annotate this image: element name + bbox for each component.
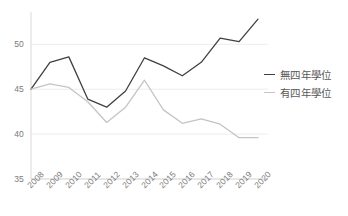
legend-label-with-degree: 有四年學位 xyxy=(280,85,332,100)
line-chart: 35404550 2008200920102011201220132014201… xyxy=(0,0,348,216)
y-tick-40: 40 xyxy=(2,129,24,139)
y-tick-35: 35 xyxy=(2,174,24,184)
legend-item-with-degree: 有四年學位 xyxy=(264,84,348,101)
legend-item-no-degree: 無四年學位 xyxy=(264,66,348,83)
series-lines xyxy=(31,19,258,138)
y-tick-45: 45 xyxy=(2,84,24,94)
y-gridlines xyxy=(31,44,268,179)
y-tick-50: 50 xyxy=(2,39,24,49)
legend-swatch-with-degree xyxy=(264,92,275,93)
chart-legend: 無四年學位 有四年學位 xyxy=(264,66,348,102)
legend-swatch-no-degree xyxy=(264,74,275,75)
chart-axes xyxy=(31,12,268,179)
legend-label-no-degree: 無四年學位 xyxy=(280,67,332,82)
